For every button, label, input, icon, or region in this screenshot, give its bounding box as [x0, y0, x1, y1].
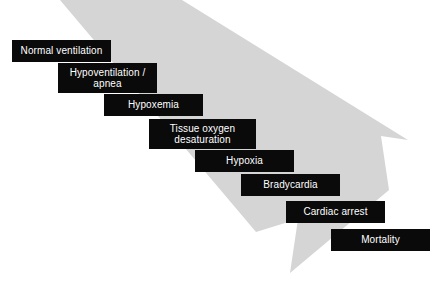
- step-box-2: Hypoventilation / apnea: [58, 63, 157, 93]
- step-box-5: Hypoxia: [195, 150, 294, 172]
- step-label-6: Bradycardia: [263, 179, 317, 191]
- step-box-8: Mortality: [331, 229, 430, 251]
- step-box-4: Tissue oxygen desaturation: [149, 119, 256, 149]
- step-label-1: Normal ventilation: [21, 45, 103, 57]
- step-box-6: Bradycardia: [241, 174, 340, 196]
- figure-container: Normal ventilation Hypoventilation / apn…: [0, 0, 439, 288]
- step-box-7: Cardiac arrest: [286, 201, 385, 223]
- step-label-2: Hypoventilation / apnea: [70, 67, 146, 90]
- figure-caption: [2, 276, 302, 288]
- step-label-3: Hypoxemia: [128, 99, 179, 111]
- step-label-8: Mortality: [361, 234, 400, 246]
- step-label-5: Hypoxia: [226, 155, 263, 167]
- step-label-4: Tissue oxygen desaturation: [170, 123, 235, 146]
- step-box-1: Normal ventilation: [12, 40, 111, 62]
- step-box-3: Hypoxemia: [104, 94, 203, 116]
- step-label-7: Cardiac arrest: [303, 206, 367, 218]
